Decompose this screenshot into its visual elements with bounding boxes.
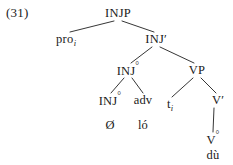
tree-node-label: dù — [207, 148, 220, 162]
tree-edge-injp-to-inj-bar — [122, 21, 154, 32]
figure-canvas: (31) INJPproiINJ′INJ°VPINJ°advtiV′ØlóV°d… — [0, 0, 233, 165]
tree-node-null-morph: Ø — [105, 119, 114, 132]
tree-node-lo: ló — [138, 119, 148, 132]
tree-node-label: INJ — [117, 64, 136, 78]
tree-node-label: pro — [56, 32, 73, 46]
tree-node-v-bar: V′ — [212, 94, 224, 107]
tree-node-vp: VP — [189, 64, 205, 77]
tree-node-injp: INJP — [105, 7, 131, 20]
tree-node-label: VP — [189, 63, 205, 77]
tree-edge-inj0-mid-to-adv — [132, 78, 143, 93]
tree-node-inj0-mid: INJ° — [117, 63, 140, 78]
index-subscript: i — [171, 103, 174, 113]
tree-node-label: V — [212, 93, 221, 107]
tree-node-label: adv — [134, 93, 153, 107]
tree-node-trace: ti — [167, 98, 173, 111]
degree-sign: ° — [216, 130, 220, 140]
tree-node-inj-bar: INJ′ — [145, 33, 166, 46]
tree-node-inj0-leaf: INJ° — [99, 93, 122, 108]
tree-node-label: INJ — [145, 32, 164, 46]
tree-branches — [0, 0, 233, 165]
tree-node-du: dù — [207, 149, 220, 162]
tree-node-label: V — [206, 133, 215, 147]
degree-sign: ° — [135, 61, 139, 71]
tree-node-adv: adv — [134, 94, 153, 107]
prime-mark: ′ — [221, 93, 224, 107]
tree-edge-inj-bar-to-inj0-mid — [131, 47, 152, 63]
degree-sign: ° — [117, 91, 121, 101]
example-number: (31) — [6, 6, 28, 19]
tree-node-label: INJ — [99, 94, 118, 108]
tree-edge-vp-to-v-bar — [201, 78, 216, 93]
tree-node-v0: V° — [206, 132, 219, 147]
tree-node-label: ló — [138, 118, 148, 132]
prime-mark: ′ — [164, 32, 167, 46]
tree-node-pro: proi — [56, 33, 76, 46]
tree-node-label: INJP — [105, 6, 131, 20]
tree-edge-vp-to-trace — [172, 78, 193, 97]
tree-edge-inj-bar-to-vp — [160, 47, 194, 63]
tree-edge-v-bar-to-v0 — [213, 108, 214, 132]
tree-edge-injp-to-pro — [70, 21, 114, 32]
index-subscript: i — [74, 38, 77, 48]
tree-node-label: Ø — [105, 118, 114, 132]
